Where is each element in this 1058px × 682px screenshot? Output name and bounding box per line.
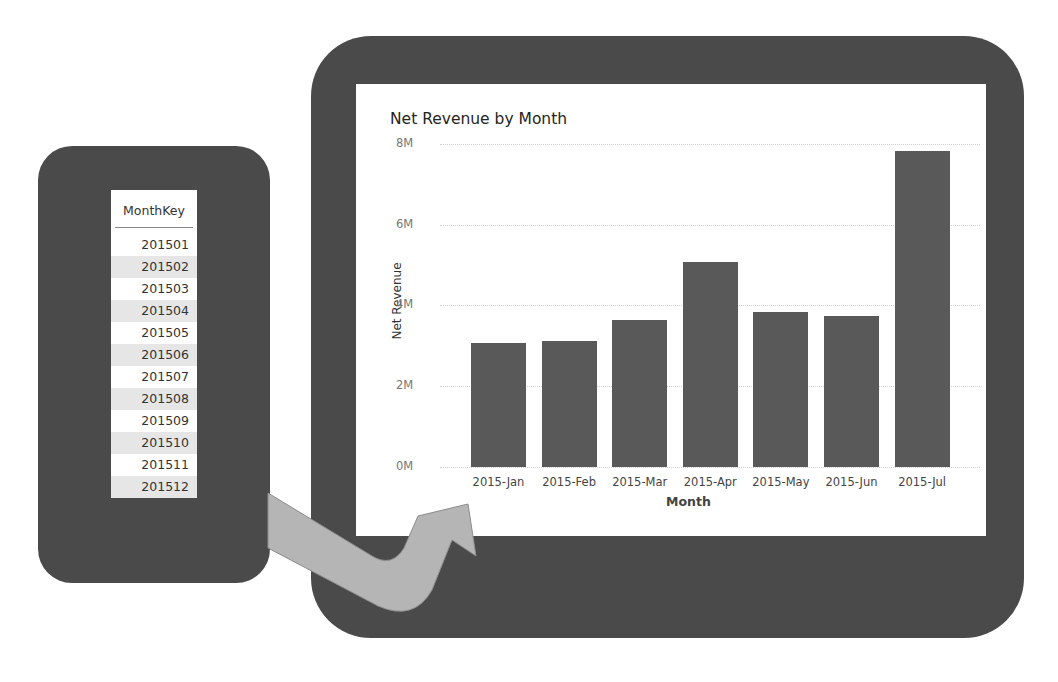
arrow-icon xyxy=(0,0,1058,682)
